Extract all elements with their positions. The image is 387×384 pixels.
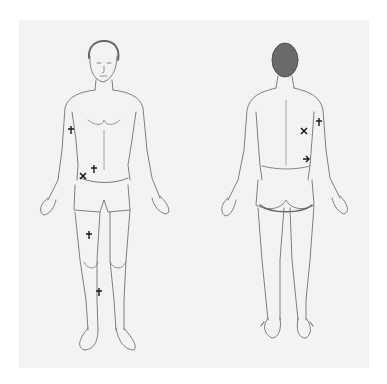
front-cross-mark-icon xyxy=(79,172,87,180)
front-plus-mark-icon xyxy=(95,288,103,296)
front-plus-mark-icon xyxy=(90,165,98,173)
front-plus-mark-icon xyxy=(67,126,75,134)
back-plus-mark-icon xyxy=(315,118,323,126)
back-figure xyxy=(222,43,348,338)
body-figures-drawing xyxy=(0,0,387,384)
back-cross-mark-icon xyxy=(300,127,308,135)
front-plus-mark-icon xyxy=(85,231,93,239)
back-arrow-mark-icon xyxy=(302,155,310,163)
front-figure xyxy=(41,41,169,350)
